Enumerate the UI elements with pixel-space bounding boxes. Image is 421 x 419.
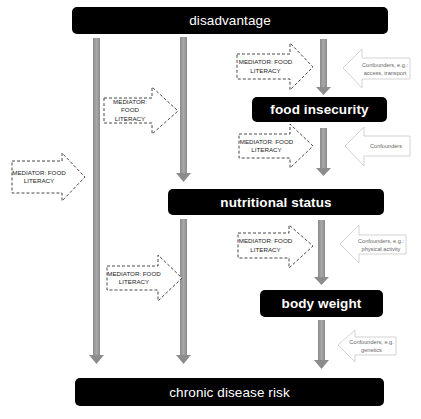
arrow-disadvantage-to-chronic-left [89, 38, 104, 364]
node-nutritional-status: nutritional status [168, 189, 384, 215]
mediator-line1: MEDIATOR: FOOD [104, 98, 156, 115]
confounder-line2: access, transport [364, 69, 407, 77]
causal-pathway-diagram: disadvantage food insecurity nutritional… [0, 0, 421, 419]
mediator-line1: MEDIATOR: FOOD [12, 169, 65, 178]
confounder-label-generic: Confounders [362, 136, 410, 156]
node-body-weight: body weight [260, 290, 383, 317]
node-chronic-disease-risk-label: chronic disease risk [169, 385, 290, 400]
node-nutritional-status-label: nutritional status [220, 195, 331, 210]
mediator-line2: LITERACY [250, 67, 280, 76]
mediator-line2: LITERACY [250, 246, 280, 255]
mediator-line1: MEDIATOR: FOOD [107, 270, 160, 279]
confounder-line1: Confounders [370, 142, 402, 150]
confounder-label-physical-activity: Confounders, e.g.: physical activity [356, 235, 406, 254]
node-food-insecurity: food insecurity [252, 97, 387, 122]
mediator-line1: MEDIATOR: FOOD [239, 237, 292, 246]
mediator-label-food-insecurity: MEDIATOR: FOOD LITERACY [237, 54, 294, 79]
mediator-label-lower-middle: MEDIATOR: FOOD LITERACY [107, 266, 161, 290]
arrow-nutritional-to-body-weight [314, 220, 329, 285]
node-disadvantage-label: disadvantage [189, 13, 271, 28]
mediator-line2: LITERACY [119, 278, 149, 287]
mediator-label-left: MEDIATOR: FOOD LITERACY [12, 161, 66, 193]
arrow-nutritional-to-chronic [176, 219, 191, 364]
confounder-line1: Confounders, e.g.: [358, 237, 404, 245]
arrow-disadvantage-to-nutritional [176, 37, 191, 182]
mediator-line2: LITERACY [115, 115, 145, 124]
node-chronic-disease-risk: chronic disease risk [75, 378, 384, 406]
node-body-weight-label: body weight [282, 296, 362, 311]
mediator-line1: MEDIATOR: FOOD [240, 138, 293, 147]
confounder-line1: Confounders, e.g. [349, 338, 393, 346]
arrow-disadvantage-to-food-insecurity [316, 39, 331, 95]
mediator-label-upper-middle: MEDIATOR: FOOD LITERACY [104, 98, 156, 123]
mediator-line2: LITERACY [251, 146, 281, 155]
node-food-insecurity-label: food insecurity [270, 102, 368, 117]
mediator-line1: MEDIATOR: FOOD [239, 58, 292, 67]
mediator-line2: LITERACY [24, 177, 54, 186]
confounder-label-access-transport: Confounders, e.g.: access, transport [360, 58, 410, 79]
confounder-line2: genetics [361, 346, 382, 354]
confounder-line1: Confounders, e.g.: [362, 61, 408, 69]
confounder-label-genetics: Confounders, e.g. genetics [347, 337, 396, 355]
confounder-line2: physical activity [362, 245, 401, 253]
mediator-label-nutritional: MEDIATOR: FOOD LITERACY [239, 134, 294, 158]
arrow-body-weight-to-chronic [314, 320, 329, 369]
arrow-food-insecurity-to-nutritional [316, 128, 331, 176]
mediator-label-body-weight: MEDIATOR: FOOD LITERACY [238, 233, 293, 258]
node-disadvantage: disadvantage [72, 7, 388, 34]
